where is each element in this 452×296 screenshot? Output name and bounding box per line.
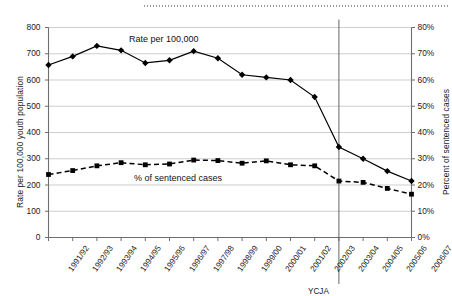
series-line-2 <box>49 160 412 194</box>
data-point <box>142 60 148 66</box>
data-point <box>191 158 196 163</box>
data-point <box>167 162 172 167</box>
data-point <box>240 161 245 166</box>
data-point <box>384 168 390 174</box>
y-tick-label-left: 400 <box>11 127 41 137</box>
data-point <box>94 43 100 49</box>
data-point <box>70 168 75 173</box>
data-point <box>118 47 124 53</box>
data-point <box>46 172 51 177</box>
data-point <box>409 192 414 197</box>
y-tick-label-left: 700 <box>11 48 41 58</box>
data-point <box>143 162 148 167</box>
y-tick-label-left: 500 <box>11 101 41 111</box>
data-point <box>336 144 342 150</box>
ycja-annotation-label: YCJA <box>308 287 329 296</box>
y-tick-label-right: 10% <box>418 206 452 216</box>
data-point <box>408 178 414 184</box>
data-point <box>119 160 124 165</box>
chart-figure: Rate per 100,000 youth population Percen… <box>0 0 452 296</box>
data-point <box>360 156 366 162</box>
data-point <box>264 158 269 163</box>
y-tick-label-right: 20% <box>418 180 452 190</box>
y-tick-label-right: 50% <box>418 101 452 111</box>
y-tick-label-right: 40% <box>418 127 452 137</box>
data-point <box>70 53 76 59</box>
data-point <box>312 163 317 168</box>
y-tick-label-left: 100 <box>11 206 41 216</box>
data-point <box>45 62 51 68</box>
y-tick-label-right: 30% <box>418 153 452 163</box>
y-tick-label-left: 0 <box>11 232 41 242</box>
data-point <box>95 163 100 168</box>
y-tick-label-right: 70% <box>418 48 452 58</box>
y-tick-label-left: 800 <box>11 22 41 32</box>
data-point <box>263 74 269 80</box>
series-line-1 <box>49 46 412 181</box>
data-point <box>361 180 366 185</box>
y-tick-label-left: 200 <box>11 180 41 190</box>
y-tick-label-right: 0% <box>418 232 452 242</box>
data-point <box>191 48 197 54</box>
data-point <box>288 162 293 167</box>
data-point <box>166 57 172 63</box>
y-tick-label-left: 300 <box>11 153 41 163</box>
y-tick-label-left: 600 <box>11 75 41 85</box>
data-point <box>216 158 221 163</box>
series-label-rate: Rate per 100,000 <box>129 34 199 44</box>
data-point <box>385 186 390 191</box>
y-tick-label-right: 80% <box>418 22 452 32</box>
data-point <box>337 179 342 184</box>
series-label-percent: % of sentenced cases <box>134 173 222 183</box>
y-tick-label-right: 60% <box>418 75 452 85</box>
